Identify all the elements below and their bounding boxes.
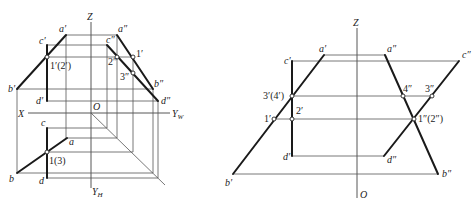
- label-b-prime-right: b′: [225, 177, 233, 188]
- label-c-dprime: c″: [106, 34, 115, 45]
- left-view: Z X O YW YH a′ c′ b′ d′ 1′(2′) a″ c″ 2″ …: [8, 11, 185, 199]
- label-4-dprime: 4″: [403, 83, 412, 94]
- label-d-prime-right: d′: [283, 151, 291, 162]
- axis-z-label: Z: [87, 11, 93, 22]
- label-b-prime: b′: [8, 83, 16, 94]
- label-1-2-prime: 1′(2′): [50, 60, 71, 72]
- label-d-dprime: d″: [161, 95, 171, 106]
- label-3-4-prime: 3′(4′): [263, 90, 284, 102]
- label-c-dprime-right: c″: [462, 49, 471, 60]
- label-1-2-dprime: 1″(2″): [418, 113, 443, 125]
- label-a-dprime-right: a″: [387, 43, 397, 54]
- label-a-dprime: a″: [118, 23, 128, 34]
- origin-label-right: O: [360, 189, 367, 200]
- label-1-3: 1(3): [49, 155, 66, 167]
- label-d-prime: d′: [36, 95, 44, 106]
- label-d: d: [39, 175, 45, 186]
- label-1-prime-side: 1′: [136, 48, 143, 59]
- label-c-prime: c′: [39, 35, 46, 46]
- label-b: b: [9, 173, 14, 184]
- label-3-dprime-right: 3″: [425, 83, 434, 94]
- right-view: Z O a′ c′ 3′(4′) 1′ 2′ d′ b′ a″ c″ 4″ 3″…: [225, 17, 471, 200]
- label-b-dprime: b″: [154, 78, 164, 89]
- label-2-prime-right: 2′: [296, 105, 303, 116]
- label-a-prime: a′: [59, 23, 67, 34]
- axis-z-label-right: Z: [353, 17, 359, 28]
- label-a: a: [69, 136, 74, 147]
- label-c-prime-right: c′: [284, 55, 291, 66]
- label-3-dprime: 3″: [120, 71, 129, 82]
- projection-diagram: Z X O YW YH a′ c′ b′ d′ 1′(2′) a″ c″ 2″ …: [0, 0, 472, 212]
- axis-yh-label: YH: [92, 186, 104, 199]
- label-2-dprime: 2″: [108, 56, 117, 67]
- label-c: c: [41, 117, 46, 128]
- 45-degree-line: [91, 113, 165, 185]
- label-b-dprime-right: b″: [442, 168, 452, 179]
- origin-label: O: [93, 101, 100, 112]
- label-a-prime-right: a′: [319, 43, 327, 54]
- diagram-canvas: Z X O YW YH a′ c′ b′ d′ 1′(2′) a″ c″ 2″ …: [0, 0, 472, 212]
- axis-yw-label: YW: [172, 108, 185, 121]
- label-d-dprime-right: d″: [387, 154, 397, 165]
- axis-x-label: X: [17, 108, 25, 119]
- label-1-prime-right: 1′: [264, 113, 271, 124]
